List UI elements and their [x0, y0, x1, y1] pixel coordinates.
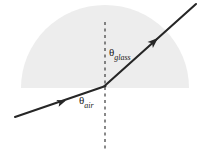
theta-air-subscript: air: [84, 101, 93, 110]
theta-glass-subscript: glass: [114, 53, 130, 62]
theta-glass-label: θglass: [109, 43, 131, 62]
diagram-canvas: [0, 0, 200, 151]
theta-air-label: θair: [79, 91, 94, 110]
refraction-diagram: θglass θair: [0, 0, 200, 151]
